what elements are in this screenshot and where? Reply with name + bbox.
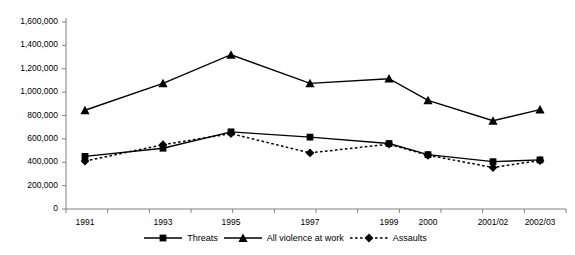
y-axis-tick-label: 800,000 <box>0 110 58 120</box>
triangle-marker-icon <box>158 79 167 88</box>
square-marker-icon <box>143 232 183 244</box>
y-axis-tick-label: 400,000 <box>0 156 58 166</box>
diamond-marker-icon <box>306 149 315 158</box>
y-axis-tick-label: 1,200,000 <box>0 63 58 73</box>
diamond-marker-icon <box>364 234 373 243</box>
y-axis-tick-label: 200,000 <box>0 180 58 190</box>
x-axis-tick-label: 1997 <box>280 217 340 227</box>
series-line-all-violence-at-work <box>85 55 540 121</box>
chart-container: 0200,000400,000600,000800,0001,000,0001,… <box>0 0 575 255</box>
legend-label: Assaults <box>389 233 432 243</box>
y-axis-tick-label: 600,000 <box>0 133 58 143</box>
square-marker-icon <box>307 134 314 141</box>
x-axis-tick-label: 1995 <box>201 217 261 227</box>
diamond-marker-icon <box>349 232 389 244</box>
triangle-marker-icon <box>423 96 432 105</box>
chart-legend: ThreatsAll violence at workAssaults <box>0 232 575 244</box>
triangle-marker-icon <box>223 232 263 244</box>
legend-item-assaults[interactable]: Assaults <box>349 232 432 244</box>
y-axis-tick-label: 1,400,000 <box>0 39 58 49</box>
legend-label: All violence at work <box>263 233 349 243</box>
square-marker-icon <box>160 235 167 242</box>
triangle-marker-icon <box>535 105 544 114</box>
x-axis-tick-label: 2002/03 <box>510 217 570 227</box>
x-axis-tick-label: 2000 <box>398 217 458 227</box>
legend-item-threats[interactable]: Threats <box>143 232 223 244</box>
y-axis-tick-label: 0 <box>0 203 58 213</box>
x-axis-tick-label: 1991 <box>55 217 115 227</box>
x-axis-tick-label: 1993 <box>133 217 193 227</box>
triangle-marker-icon <box>226 50 235 59</box>
legend-label: Threats <box>183 233 223 243</box>
legend-item-all-violence-at-work[interactable]: All violence at work <box>223 232 349 244</box>
y-axis-tick-label: 1,000,000 <box>0 86 58 96</box>
y-axis-tick-label: 1,600,000 <box>0 16 58 26</box>
triangle-marker-icon <box>80 106 89 115</box>
